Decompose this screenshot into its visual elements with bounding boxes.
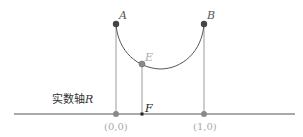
label-origin: (0,0) [104, 121, 128, 132]
semicircle-arc [116, 24, 204, 69]
label-b: B [206, 9, 215, 22]
real-axis-label: 实数轴R [52, 92, 93, 106]
label-e: E [144, 51, 153, 64]
label-one: (1,0) [193, 121, 217, 132]
diagram-canvas: A B E F (0,0) (1,0) 实数轴R [0, 0, 303, 137]
label-f: F [144, 102, 153, 115]
point-one [201, 111, 207, 117]
point-f [141, 113, 144, 116]
real-axis-label-var: R [84, 93, 93, 106]
real-axis-label-text: 实数轴 [52, 92, 85, 106]
label-a: A [118, 9, 127, 22]
point-origin [113, 111, 119, 117]
